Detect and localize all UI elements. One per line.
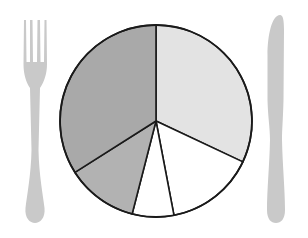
knife-shape: [267, 15, 285, 223]
knife-icon: [267, 15, 285, 223]
chart-canvas: [0, 0, 308, 238]
pie-plate-illustration: Pie chart drawn as a dinner plate betwee…: [0, 0, 308, 238]
pie-slices: [60, 25, 252, 217]
fork-icon: [24, 20, 48, 223]
fork-shape: [24, 20, 48, 223]
